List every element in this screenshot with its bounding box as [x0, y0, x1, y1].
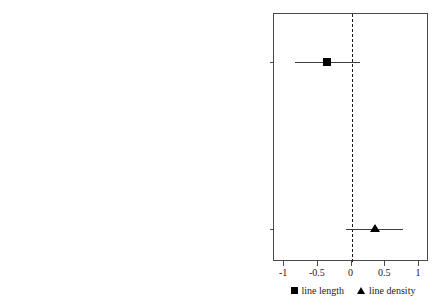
x-axis-tick-label: 1	[415, 267, 420, 278]
y-axis-tick-line-density	[270, 229, 274, 230]
x-axis-tick	[418, 261, 419, 266]
zero-reference-line	[352, 14, 353, 262]
triangle-marker-icon	[357, 287, 365, 294]
plot-area	[273, 13, 428, 261]
legend: line length line density	[273, 285, 433, 296]
x-axis-tick-label: -1	[279, 267, 287, 278]
legend-label-line-length: line length	[302, 285, 345, 296]
x-axis-tick	[384, 261, 385, 266]
x-axis-tick	[317, 261, 318, 266]
x-axis-tick-label: 0.5	[378, 267, 391, 278]
legend-label-line-density: line density	[369, 285, 415, 296]
point-marker-line-length	[323, 58, 331, 66]
legend-entry-line-length: line length	[291, 285, 345, 296]
x-axis: -1-0.500.51	[273, 261, 428, 262]
x-axis-tick	[351, 261, 352, 266]
x-axis-tick-label: 0	[348, 267, 353, 278]
y-axis-tick-line-length	[270, 62, 274, 63]
square-marker-icon	[291, 287, 298, 294]
x-axis-tick	[283, 261, 284, 266]
legend-entry-line-density: line density	[357, 285, 415, 296]
point-marker-line-density	[370, 224, 380, 232]
x-axis-tick-label: -0.5	[309, 267, 325, 278]
coefficient-plot-figure: ln(Fuel segmentation index)#ln(transmiss…	[0, 0, 440, 305]
